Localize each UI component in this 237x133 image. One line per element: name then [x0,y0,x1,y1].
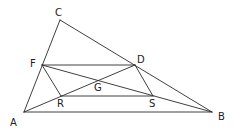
point-label-g: G [94,82,102,93]
point-label-a: A [10,117,17,128]
labels: ABCDFRSG [10,7,225,128]
point-label-f: F [30,58,36,69]
segment-ad [24,65,135,112]
point-label-s: S [149,98,155,109]
geometry-diagram: ABCDFRSG [0,0,237,133]
point-label-c: C [55,7,62,18]
point-label-b: B [218,111,225,122]
point-label-d: D [137,54,145,65]
segments [24,20,212,112]
segment-fb [42,65,212,112]
point-label-r: R [57,98,64,109]
